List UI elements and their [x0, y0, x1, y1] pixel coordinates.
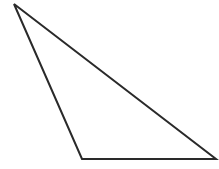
triangle-shape — [14, 4, 216, 159]
diagram-canvas — [0, 0, 219, 169]
